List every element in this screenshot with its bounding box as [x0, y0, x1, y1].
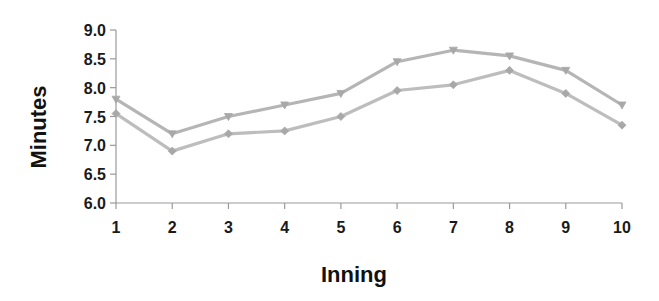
data-point-marker: [281, 127, 289, 135]
data-point-marker: [618, 102, 626, 109]
series-2: [112, 66, 626, 155]
x-tick-label: 7: [449, 219, 458, 236]
series-layer: [112, 47, 626, 155]
x-tick-label: 1: [112, 219, 121, 236]
y-tick-label: 8.0: [84, 80, 106, 97]
series-1: [112, 47, 626, 138]
y-tick-label: 6.5: [84, 166, 106, 183]
y-tick-label: 7.5: [84, 109, 106, 126]
y-tick-label: 6.0: [84, 195, 106, 212]
data-point-marker: [224, 130, 232, 138]
data-point-marker: [449, 81, 457, 89]
x-tick-label: 5: [336, 219, 345, 236]
y-tick-label: 7.0: [84, 137, 106, 154]
series-line: [116, 50, 622, 134]
y-tick-label: 8.5: [84, 51, 106, 68]
x-tick-label: 9: [561, 219, 570, 236]
y-axis: 6.06.57.07.58.08.59.0: [84, 22, 116, 212]
x-axis-title: Inning: [321, 262, 387, 287]
x-tick-label: 2: [168, 219, 177, 236]
y-axis-title: Minutes: [26, 85, 51, 168]
x-tick-label: 4: [280, 219, 289, 236]
y-tick-label: 9.0: [84, 22, 106, 39]
x-tick-label: 10: [613, 219, 631, 236]
line-chart: 6.06.57.07.58.08.59.0 12345678910 Minute…: [0, 0, 659, 301]
x-tick-label: 8: [505, 219, 514, 236]
x-tick-label: 3: [224, 219, 233, 236]
x-tick-label: 6: [393, 219, 402, 236]
series-line: [116, 70, 622, 151]
x-axis: 12345678910: [112, 203, 631, 236]
